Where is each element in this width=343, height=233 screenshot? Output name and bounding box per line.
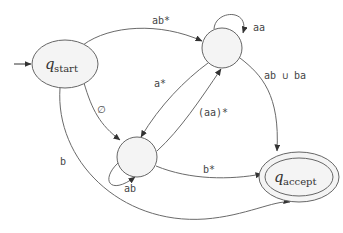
edge-s1-to-accept: ab ∪ ba — [240, 58, 306, 151]
edge-start-to-accept: b — [60, 88, 290, 219]
edge-start-to-s2: ∅ — [84, 83, 120, 140]
edge-s1-to-s2: a* — [141, 63, 208, 137]
automaton-diagram: ab* ∅ b aa a* (aa)* ab ∪ ba ab b* q star… — [0, 0, 343, 233]
edge-label-s1-loop: aa — [253, 22, 265, 33]
state-accept: q accept — [259, 152, 339, 202]
edge-start-to-s1: ab* — [83, 15, 202, 45]
state-start: q start — [32, 40, 98, 88]
edge-label-start-s2: ∅ — [97, 104, 106, 115]
state-start-subscript: start — [54, 63, 78, 74]
state-accept-subscript: accept — [283, 176, 317, 187]
edge-label-s1-s2: a* — [154, 78, 166, 89]
edge-label-s1-accept: ab ∪ ba — [264, 70, 306, 81]
edge-label-s2-s1: (aa)* — [198, 107, 228, 118]
edge-label-s2-accept: b* — [203, 164, 215, 175]
edge-label-s2-loop: ab — [124, 183, 136, 194]
edge-s2-to-accept: b* — [156, 164, 262, 178]
state-s2 — [117, 137, 157, 177]
edge-s2-to-s1: (aa)* — [157, 69, 228, 151]
edge-label-start-s1: ab* — [152, 15, 170, 26]
edge-label-start-accept: b — [60, 156, 66, 167]
state-s1 — [202, 28, 242, 68]
